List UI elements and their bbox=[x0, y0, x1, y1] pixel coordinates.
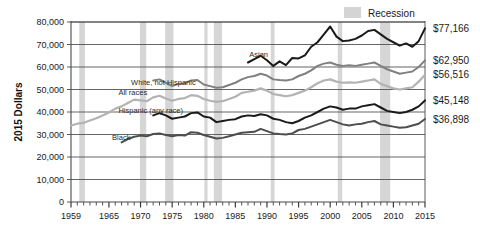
y-tick-label-80,000: 80,000 bbox=[36, 17, 64, 27]
y-tick-label-50,000: 50,000 bbox=[36, 85, 64, 95]
series-label-all-races: All races bbox=[118, 88, 147, 97]
y-tick-label-60,000: 60,000 bbox=[36, 62, 64, 72]
x-tick-label-1965: 1965 bbox=[99, 211, 119, 221]
legend-label-recession: Recession bbox=[368, 8, 415, 19]
end-value-label-all-races: $56,516 bbox=[433, 69, 470, 80]
y-tick-label-30,000: 30,000 bbox=[36, 130, 64, 140]
income-by-race-line-chart: 010,00020,00030,00040,00050,00060,00070,… bbox=[0, 0, 480, 240]
y-tick-label-40,000: 40,000 bbox=[36, 107, 64, 117]
chart-container: 010,00020,00030,00040,00050,00060,00070,… bbox=[0, 0, 480, 240]
end-value-label-black: $36,898 bbox=[433, 114, 470, 125]
x-tick-label-1959: 1959 bbox=[61, 211, 81, 221]
end-value-label-white-not-hispanic: $62,950 bbox=[433, 55, 470, 66]
x-tick-label-1990: 1990 bbox=[257, 211, 277, 221]
x-tick-label-1975: 1975 bbox=[162, 211, 182, 221]
x-tick-label-1970: 1970 bbox=[131, 211, 151, 221]
x-tick-label-2015: 2015 bbox=[415, 211, 435, 221]
x-tick-label-1980: 1980 bbox=[194, 211, 214, 221]
y-tick-label-70,000: 70,000 bbox=[36, 40, 64, 50]
y-tick-label-10,000: 10,000 bbox=[36, 175, 64, 185]
x-tick-label-2005: 2005 bbox=[352, 211, 372, 221]
x-tick-label-2010: 2010 bbox=[383, 211, 403, 221]
series-label-hispanic-any-race: Hispanic (any race) bbox=[118, 106, 183, 115]
x-tick-label-2000: 2000 bbox=[320, 211, 340, 221]
series-label-white-not-hispanic: White, not Hispanic bbox=[131, 78, 196, 87]
y-tick-label-0: 0 bbox=[59, 197, 64, 207]
x-tick-label-1995: 1995 bbox=[289, 211, 309, 221]
series-label-asian: Asian bbox=[249, 50, 268, 59]
x-tick-label-1985: 1985 bbox=[225, 211, 245, 221]
legend-swatch-recession bbox=[344, 7, 361, 18]
y-tick-label-20,000: 20,000 bbox=[36, 152, 64, 162]
series-label-black: Black bbox=[112, 133, 131, 142]
end-value-label-hispanic-any-race: $45,148 bbox=[433, 95, 470, 106]
end-value-label-asian: $77,166 bbox=[433, 23, 470, 34]
y-axis-title: 2015 Dollars bbox=[13, 82, 24, 141]
